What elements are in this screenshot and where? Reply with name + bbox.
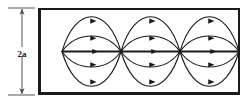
wave-node-point [178, 50, 181, 53]
figure-container: 2a [0, 0, 250, 103]
field-pattern-diagram: 2a [0, 0, 250, 103]
wave-node-point [119, 50, 122, 53]
dimension-label-2a: 2a [18, 49, 28, 59]
